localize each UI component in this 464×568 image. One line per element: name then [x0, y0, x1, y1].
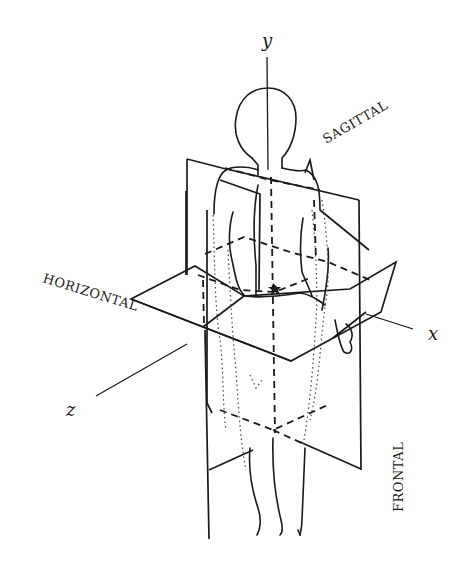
horizontal-plane-outline [131, 262, 396, 361]
head-outline [235, 88, 296, 168]
center-leg-outline [273, 438, 282, 535]
left-leg-outline [249, 448, 260, 535]
sagittal-top-corner [305, 160, 314, 180]
y-axis: y [261, 30, 273, 170]
plane-intersection-lines [198, 168, 370, 445]
x-axis-label: x [428, 323, 438, 344]
sagittal-label: SAGITTAL [320, 97, 390, 146]
x-axis: x [366, 314, 438, 344]
anatomical-planes-diagram: y [0, 0, 464, 568]
z-axis: z [65, 344, 187, 420]
shoulders-outline [226, 167, 306, 171]
horizontal-plane [131, 262, 396, 361]
frontal-label: FRONTAL [391, 442, 406, 512]
z-axis-label: z [65, 399, 76, 420]
body-figure [214, 88, 352, 535]
horizontal-label: HORIZONTAL [41, 271, 140, 314]
y-axis-label: y [261, 30, 273, 51]
right-leg-outline [300, 448, 305, 535]
